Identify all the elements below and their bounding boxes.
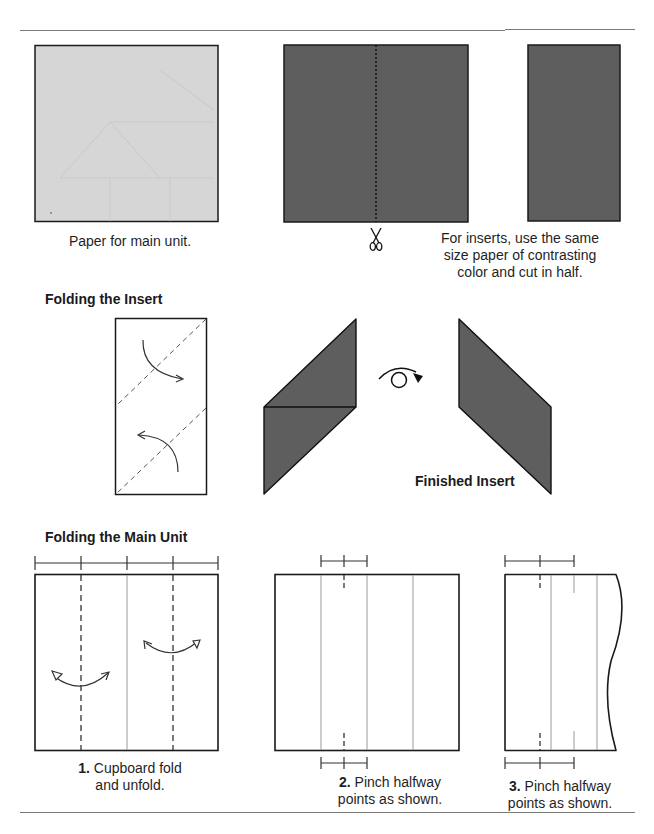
- folded-insert-shape: [264, 319, 356, 494]
- step2-caption-line1: 2. Pinch halfway: [300, 774, 480, 791]
- scissors-icon: [370, 228, 382, 250]
- step1-caption-line2: and unfold.: [40, 777, 220, 794]
- step2-measure-bar-top: [321, 555, 367, 567]
- turn-over-icon: [379, 368, 423, 387]
- step-text: Pinch halfway: [355, 774, 441, 790]
- step-number: 1.: [78, 760, 90, 776]
- insert-caption-line: color and cut in half.: [420, 264, 620, 281]
- main-paper-square: [35, 46, 218, 222]
- insert-caption-line: For inserts, use the same: [420, 230, 620, 247]
- step1-caption: 1. Cupboard fold and unfold.: [40, 760, 220, 794]
- step-number: 2.: [339, 774, 351, 790]
- step3-caption-line2: points as shown.: [490, 795, 630, 812]
- finished-insert-label: Finished Insert: [415, 473, 515, 489]
- main-paper-caption: Paper for main unit.: [35, 233, 225, 250]
- step2-caption-line2: points as shown.: [300, 791, 480, 808]
- diagram-canvas: [0, 0, 654, 834]
- step1-caption-line1: 1. Cupboard fold: [40, 760, 220, 777]
- insert-caption-line: size paper of contrasting: [420, 247, 620, 264]
- insert-paper-square: [284, 45, 468, 222]
- step3-measure-bar-top: [505, 555, 574, 567]
- step3-measure-bar-bottom: [505, 757, 574, 769]
- heading-folding-main-unit: Folding the Main Unit: [45, 529, 187, 545]
- step3-caption: 3. Pinch halfway points as shown.: [490, 778, 630, 812]
- finished-insert-shape: [459, 319, 551, 494]
- heading-folding-insert: Folding the Insert: [45, 291, 162, 307]
- step3-caption-line1: 3. Pinch halfway: [490, 778, 630, 795]
- insert-fold-diagram: [116, 319, 207, 495]
- step-text: Cupboard fold: [94, 760, 182, 776]
- step-text: Pinch halfway: [525, 778, 611, 794]
- step2-measure-bar-bottom: [321, 757, 367, 769]
- insert-paper-caption: For inserts, use the same size paper of …: [420, 230, 620, 281]
- step2-caption: 2. Pinch halfway points as shown.: [300, 774, 480, 808]
- step3-diagram: [505, 575, 622, 751]
- step2-diagram: [275, 575, 459, 751]
- step1-diagram: [35, 575, 218, 751]
- step1-measure-bar: [35, 556, 218, 570]
- insert-half-rectangle: [528, 45, 620, 221]
- step-number: 3.: [509, 778, 521, 794]
